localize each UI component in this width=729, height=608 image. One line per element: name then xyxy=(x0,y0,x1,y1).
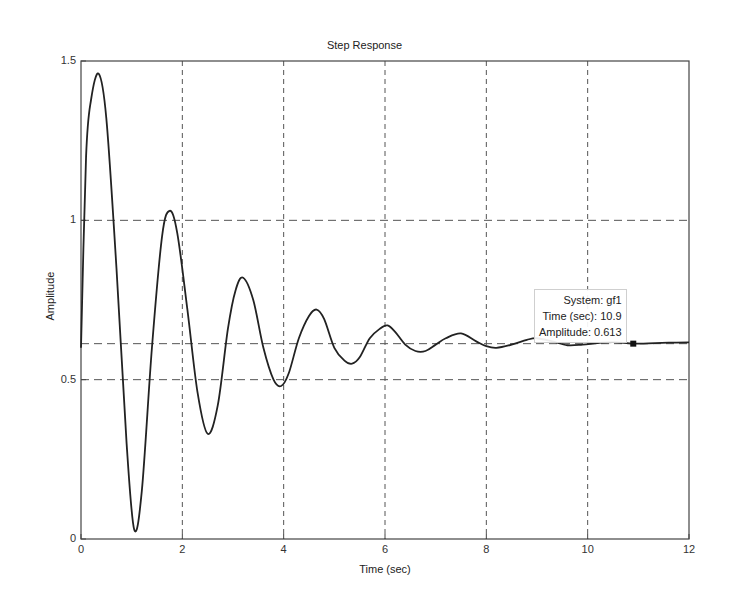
datatip-marker[interactable] xyxy=(630,341,636,347)
datatip[interactable]: System: gf1 Time (sec): 10.9 Amplitude: … xyxy=(534,289,627,343)
x-tick-label: 8 xyxy=(471,543,501,555)
x-tick-label: 4 xyxy=(269,543,299,555)
y-tick-label: 0.5 xyxy=(46,373,76,385)
x-axis-label: Time (sec) xyxy=(335,563,435,575)
step-response-figure: Step Response 024681012 00.511.5 Time (s… xyxy=(0,0,729,608)
x-tick-label: 10 xyxy=(573,543,603,555)
datatip-system: System: gf1 xyxy=(539,292,622,308)
x-tick-label: 0 xyxy=(66,543,96,555)
y-tick-label: 1 xyxy=(46,213,76,225)
datatip-time: Time (sec): 10.9 xyxy=(539,308,622,324)
x-tick-label: 12 xyxy=(674,543,704,555)
y-tick-label: 1.5 xyxy=(46,54,76,66)
y-axis-label: Amplitude xyxy=(44,256,56,336)
x-tick-label: 6 xyxy=(370,543,400,555)
y-tick-label: 0 xyxy=(46,532,76,544)
datatip-amplitude: Amplitude: 0.613 xyxy=(539,324,622,340)
x-tick-label: 2 xyxy=(167,543,197,555)
